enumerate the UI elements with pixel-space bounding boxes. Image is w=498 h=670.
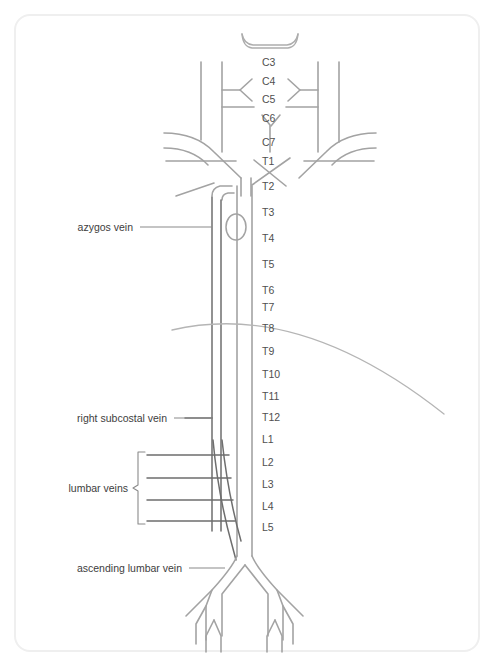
vert-label-t11: T11 — [262, 390, 279, 402]
vert-label-l2: L2 — [262, 456, 274, 468]
ascending-lumbar-vein-label: ascending lumbar vein — [77, 562, 182, 574]
vert-label-c3: C3 — [262, 56, 276, 68]
vert-label-t5: T5 — [262, 258, 274, 270]
vert-label-t7: T7 — [262, 301, 274, 313]
vert-label-l1: L1 — [262, 433, 274, 445]
vertebral-level-labels: C3 C4 C5 C6 C7 T1 T2 T3 T4 T5 T6 T7 T8 T… — [262, 56, 280, 533]
vert-label-t9: T9 — [262, 345, 274, 357]
azygos-ostium-oval — [226, 214, 246, 240]
vert-label-c7: C7 — [262, 136, 276, 148]
annotation-right-subcostal-vein: right subcostal vein — [77, 412, 212, 424]
vert-label-c5: C5 — [262, 93, 276, 105]
azygos-system-diagram: C3 C4 C5 C6 C7 T1 T2 T3 T4 T5 T6 T7 T8 T… — [0, 0, 498, 670]
vert-label-l3: L3 — [262, 478, 274, 490]
left-t2-branch — [176, 183, 214, 196]
vert-label-t2: T2 — [262, 180, 274, 192]
azygos-arch — [212, 186, 234, 200]
vert-label-c6: C6 — [262, 112, 276, 124]
superior-arch — [242, 34, 298, 48]
vert-label-l4: L4 — [262, 500, 274, 512]
left-jugular-branch-c4 — [222, 79, 252, 101]
right-jugular-branch-c4 — [288, 79, 318, 101]
lumbar-veins-brace — [133, 452, 145, 524]
lumbar-veins-label: lumbar veins — [68, 482, 128, 494]
vert-label-t3: T3 — [262, 206, 274, 218]
azygos-trunk — [212, 197, 221, 531]
annotation-lumbar-veins: lumbar veins — [68, 452, 145, 524]
vert-label-t10: T10 — [262, 368, 280, 380]
vert-label-t4: T4 — [262, 232, 274, 244]
left-brachiocephalic-vein — [164, 133, 241, 178]
vert-label-t1: T1 — [262, 155, 274, 167]
annotation-azygos-vein: azygos vein — [78, 221, 212, 233]
annotation-ascending-lumbar-vein: ascending lumbar vein — [77, 562, 225, 574]
vert-label-l5: L5 — [262, 521, 274, 533]
vert-label-c4: C4 — [262, 75, 276, 87]
right-iliac-branches — [267, 590, 293, 652]
right-subcostal-vein-label: right subcostal vein — [77, 412, 167, 424]
vert-label-t12: T12 — [262, 411, 280, 423]
azygos-vein-label: azygos vein — [78, 221, 134, 233]
anatomical-figure: C3 C4 C5 C6 C7 T1 T2 T3 T4 T5 T6 T7 T8 T… — [0, 0, 498, 670]
inferior-vena-cava — [237, 186, 252, 556]
left-iliac-branches — [196, 590, 221, 652]
vert-label-t6: T6 — [262, 284, 274, 296]
vert-label-t8: T8 — [262, 322, 274, 334]
diaphragm-outline — [172, 324, 444, 414]
right-brachiocephalic-vein — [299, 133, 376, 178]
superior-vena-cava — [241, 178, 251, 196]
